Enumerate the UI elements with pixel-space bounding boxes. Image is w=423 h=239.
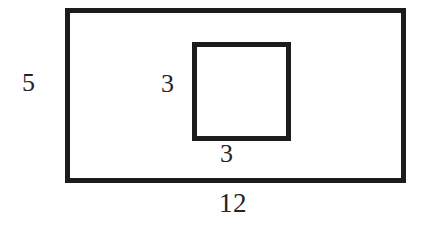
inner-square-shape (192, 42, 291, 141)
inner-square-height-label: 3 (161, 71, 175, 97)
inner-square-width-label: 3 (220, 141, 234, 167)
outer-rectangle-width-label: 12 (219, 190, 247, 217)
geometry-figure: 5 3 3 12 (0, 0, 423, 239)
outer-rectangle-height-label: 5 (22, 70, 36, 96)
